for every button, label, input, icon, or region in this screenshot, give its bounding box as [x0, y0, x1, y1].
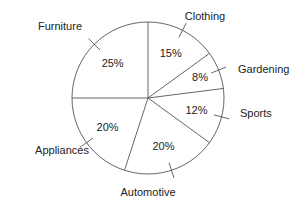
- slice-category-label: Furniture: [38, 20, 82, 32]
- pie-chart: 15%8%12%20%20%25% ClothingGardeningSport…: [0, 0, 306, 209]
- slice-percent-label: 15%: [160, 47, 182, 59]
- slice-category-label: Appliances: [35, 144, 89, 156]
- slice-percent-label: 8%: [192, 71, 208, 83]
- slice-percent-label: 25%: [102, 57, 124, 69]
- slice-category-label: Automotive: [120, 186, 175, 198]
- slice-category-label: Gardening: [238, 63, 289, 75]
- slice-percent-label: 20%: [97, 121, 119, 133]
- slice-percent-label: 20%: [152, 140, 174, 152]
- slice-category-label: Clothing: [185, 10, 225, 22]
- slice-category-label: Sports: [240, 107, 272, 119]
- slice-percent-label: 12%: [185, 104, 207, 116]
